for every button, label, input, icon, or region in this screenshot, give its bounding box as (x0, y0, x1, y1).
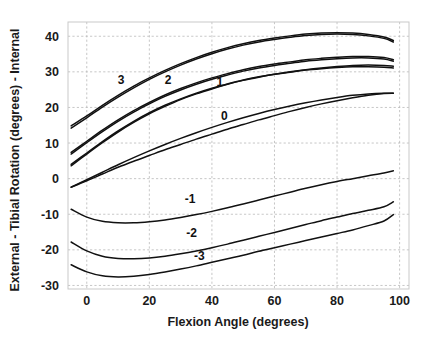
x-tick-20: 20 (142, 294, 156, 308)
x-tick-60: 60 (268, 294, 282, 308)
y-tick--20: -20 (41, 243, 59, 257)
y-tick-20: 20 (45, 101, 59, 115)
chart-figure: 3210-1-2-3 020406080100 403020100-10-20-… (0, 0, 425, 337)
x-tick-100: 100 (389, 294, 410, 308)
curve-label-2: 2 (165, 73, 172, 87)
chart-background (0, 0, 425, 337)
x-tick-40: 40 (205, 294, 219, 308)
y-tick--10: -10 (41, 208, 59, 222)
y-tick-40: 40 (45, 30, 59, 44)
x-tick-0: 0 (83, 294, 90, 308)
x-tick-80: 80 (330, 294, 344, 308)
y-tick--30: -30 (41, 279, 59, 293)
curve-label-3: 3 (118, 73, 125, 87)
curve-label-1: 1 (216, 75, 223, 89)
curve-label--2: -2 (186, 226, 197, 240)
y-tick-0: 0 (52, 172, 59, 186)
y-axis-title: External - Tibial Rotation (degrees) - I… (8, 28, 22, 291)
curve-label-0: 0 (221, 109, 228, 123)
y-tick-30: 30 (45, 65, 59, 79)
curve-label--1: -1 (185, 192, 196, 206)
x-axis-title: Flexion Angle (degrees) (167, 315, 308, 329)
curve-label--3: -3 (194, 249, 205, 263)
y-tick-10: 10 (45, 137, 59, 151)
tibial-rotation-line-chart: 3210-1-2-3 020406080100 403020100-10-20-… (0, 0, 425, 337)
